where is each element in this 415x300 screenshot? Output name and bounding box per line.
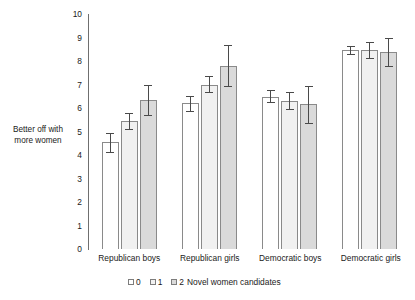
bar[interactable]: [281, 101, 298, 249]
error-bar-cap-top: [144, 85, 152, 86]
bar[interactable]: [182, 103, 199, 249]
legend-item-label: 2: [179, 277, 184, 287]
bar-group: [169, 14, 249, 249]
error-bar-cap-bottom: [385, 66, 393, 67]
y-axis-label-line-1: Better off with: [2, 124, 74, 135]
bar-slot: [220, 14, 237, 249]
error-bar-cap-top: [224, 45, 232, 46]
bar-group: [250, 14, 330, 249]
bar-slot: [262, 14, 279, 249]
legend-item[interactable]: 0: [128, 277, 141, 287]
bar[interactable]: [102, 142, 119, 249]
error-bar-cap-top: [125, 113, 133, 114]
bar[interactable]: [121, 121, 138, 249]
legend-swatch-icon: [171, 279, 177, 285]
error-bar-cap-top: [366, 42, 374, 43]
error-bar: [228, 45, 229, 87]
y-axis-tick-label: 8: [77, 56, 82, 66]
error-bar-cap-bottom: [305, 123, 313, 124]
y-axis-tick-label: 1: [77, 221, 82, 231]
bar[interactable]: [140, 100, 157, 249]
error-bar-cap-top: [347, 46, 355, 47]
bar[interactable]: [220, 66, 237, 249]
y-axis-tick-label: 6: [77, 103, 82, 113]
bar-slot: [121, 14, 138, 249]
legend-title: Novel women candidates: [187, 277, 281, 287]
error-bar: [369, 42, 370, 58]
error-bar: [350, 46, 351, 55]
error-bar: [388, 38, 389, 67]
x-axis-category-label: Democratic girls: [331, 253, 412, 263]
y-axis-tick-label: 5: [77, 127, 82, 137]
error-bar: [209, 76, 210, 92]
y-axis-tick-label: 4: [77, 150, 82, 160]
error-bar-cap-bottom: [205, 92, 213, 93]
y-axis-tick-label: 9: [77, 33, 82, 43]
error-bar-cap-top: [205, 76, 213, 77]
bar-slot: [201, 14, 218, 249]
chart-legend: 012Novel women candidates: [128, 277, 281, 287]
error-bar-cap-top: [305, 86, 313, 87]
bar-slot: [300, 14, 317, 249]
error-bar-cap-bottom: [267, 102, 275, 103]
y-axis-tick-label: 10: [73, 9, 82, 19]
error-bar-cap-bottom: [125, 129, 133, 130]
bar[interactable]: [300, 104, 317, 249]
y-axis-label: Better off with more women: [2, 124, 74, 146]
error-bar-cap-top: [106, 133, 114, 134]
bar-slot: [342, 14, 359, 249]
bar[interactable]: [201, 85, 218, 250]
y-axis-label-line-2: more women: [2, 135, 74, 146]
bar[interactable]: [361, 50, 378, 249]
legend-swatch-icon: [128, 279, 134, 285]
bar[interactable]: [342, 50, 359, 249]
y-axis-tick-label: 3: [77, 174, 82, 184]
error-bar-cap-bottom: [224, 86, 232, 87]
error-bar-cap-top: [267, 90, 275, 91]
legend-item-label: 1: [158, 277, 163, 287]
error-bar-cap-bottom: [186, 111, 194, 112]
bar[interactable]: [262, 97, 279, 249]
error-bar: [308, 86, 309, 125]
error-bar-cap-bottom: [347, 54, 355, 55]
legend-item[interactable]: 1: [150, 277, 163, 287]
bar-group: [89, 14, 169, 249]
error-bar: [110, 133, 111, 153]
error-bar-cap-top: [385, 38, 393, 39]
error-bar: [129, 113, 130, 131]
x-axis-category-label: Republican girls: [170, 253, 251, 263]
y-axis-tick-label: 2: [77, 197, 82, 207]
bar-slot: [140, 14, 157, 249]
error-bar-cap-bottom: [144, 115, 152, 116]
bar-slot: [102, 14, 119, 249]
bar-slot: [281, 14, 298, 249]
bar-slot: [380, 14, 397, 249]
bar-group: [330, 14, 410, 249]
bar-slot: [361, 14, 378, 249]
error-bar: [148, 85, 149, 117]
bar-chart: Better off with more women 109876543210 …: [0, 0, 415, 300]
bar-groups: [89, 14, 410, 249]
plot-area: 109876543210: [88, 14, 410, 249]
x-axis-category-label: Republican boys: [89, 253, 170, 263]
error-bar: [270, 90, 271, 103]
x-axis-category-label: Democratic boys: [250, 253, 331, 263]
error-bar-cap-bottom: [286, 109, 294, 110]
y-axis-tick-label: 0: [77, 244, 82, 254]
error-bar: [190, 96, 191, 111]
bar[interactable]: [380, 52, 397, 249]
legend-item-label: 0: [136, 277, 141, 287]
bar-slot: [182, 14, 199, 249]
error-bar-cap-bottom: [366, 58, 374, 59]
x-axis-category-labels: Republican boysRepublican girlsDemocrati…: [89, 253, 411, 263]
y-axis-tick-label: 7: [77, 80, 82, 90]
error-bar-cap-top: [186, 96, 194, 97]
legend-swatch-icon: [150, 279, 156, 285]
error-bar-cap-top: [286, 92, 294, 93]
error-bar: [289, 92, 290, 111]
legend-item[interactable]: 2Novel women candidates: [171, 277, 280, 287]
error-bar-cap-bottom: [106, 152, 114, 153]
